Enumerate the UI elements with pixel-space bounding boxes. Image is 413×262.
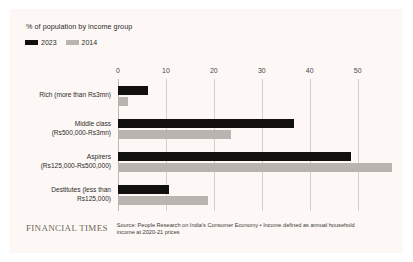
category-label: Middle class(Rs500,000-Rs3mn) [52,120,111,137]
plot-area: Rich (more than Rs3mn)Middle class(Rs500… [118,79,396,211]
x-tick-label-50: 50 [354,67,362,74]
bar-2014[interactable] [118,97,128,106]
legend-swatch-2023 [25,40,38,45]
legend-item-2023[interactable]: 2023 [25,39,57,46]
chart-legend: 2023 2014 [25,37,97,47]
bar-2014[interactable] [118,196,208,205]
bar-2023[interactable] [118,119,294,128]
bar-2023[interactable] [118,152,351,161]
legend-item-2014[interactable]: 2014 [66,39,98,46]
category-label: Rich (more than Rs3mn) [39,91,111,99]
category-group: Middle class(Rs500,000-Rs3mn) [118,112,396,145]
legend-label-2023: 2023 [41,39,57,46]
category-label: Aspirers(Rs125,000-Rs500,000) [41,153,111,170]
x-axis-tick-labels: 01020304050 [118,67,396,78]
bar-2014[interactable] [118,130,231,139]
chart-card: % of population by income group 2023 201… [10,9,403,253]
category-label: Destitutes (less thanRs125,000) [51,186,111,203]
category-group: Aspirers(Rs125,000-Rs500,000) [118,145,396,178]
x-tick-label-0: 0 [116,67,120,74]
x-tick-label-40: 40 [306,67,314,74]
legend-label-2014: 2014 [82,39,98,46]
chart-title: % of population by income group [26,22,132,31]
financial-times-logo: FINANCIAL TIMES [26,222,108,233]
bar-2014[interactable] [118,163,392,172]
x-tick-label-30: 30 [258,67,266,74]
x-tick-label-10: 10 [162,67,170,74]
source-note: Source: People Research on India's Consu… [117,222,369,237]
bar-2023[interactable] [118,86,148,95]
legend-swatch-2014 [66,40,79,45]
bar-2023[interactable] [118,185,169,194]
category-group: Destitutes (less thanRs125,000) [118,178,396,211]
category-group: Rich (more than Rs3mn) [118,79,396,112]
chart-footer: FINANCIAL TIMES Source: People Research … [26,222,393,237]
x-tick-label-20: 20 [210,67,218,74]
